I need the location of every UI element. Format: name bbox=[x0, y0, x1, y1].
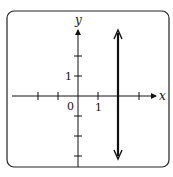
y-axis-label: y bbox=[74, 13, 82, 27]
x-axis-label: x bbox=[159, 89, 166, 103]
coordinate-graph: y x 0 1 1 bbox=[0, 0, 173, 177]
origin-label: 0 bbox=[67, 100, 74, 113]
y-tick-label-1: 1 bbox=[65, 70, 72, 83]
graph-frame bbox=[7, 11, 169, 167]
x-tick-label-1: 1 bbox=[95, 101, 102, 114]
